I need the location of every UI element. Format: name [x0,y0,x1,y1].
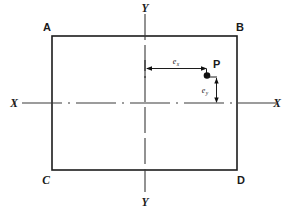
corner-label-c: C [42,174,50,186]
corner-label-b: B [236,21,244,33]
ey-arrowhead-top [214,78,218,84]
ex-arrowhead-left [146,66,152,71]
axis-label-y-bottom: Y [141,196,149,208]
point-p-label: P [213,58,220,70]
rectangular-section-diagram: ex P ey A B C D Y Y X X [0,0,290,213]
corner-label-d: D [237,174,245,186]
axis-label-y-top: Y [141,2,149,14]
ey-arrowhead-bottom [214,98,218,104]
dimension-label-ex: ex [173,57,180,67]
axis-label-x-right: X [272,97,281,109]
point-p-marker [204,72,211,79]
dimension-label-ey: ey [202,86,209,96]
axis-label-x-left: X [9,97,18,109]
corner-label-a: A [43,21,51,33]
diagram-canvas: ex P ey A B C D Y Y X X [0,0,290,213]
